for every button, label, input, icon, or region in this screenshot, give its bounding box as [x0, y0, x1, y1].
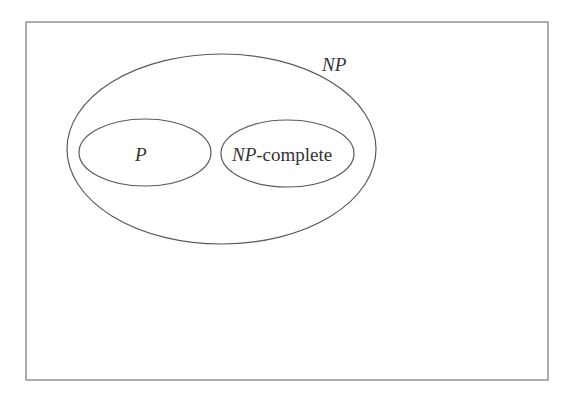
np-complete-label-suffix: -complete — [256, 144, 332, 165]
np-label: NP — [321, 54, 347, 75]
p-label: P — [134, 144, 147, 165]
np-complete-label-prefix: NP — [231, 144, 257, 165]
complexity-classes-diagram: NP P NP-complete — [0, 0, 573, 396]
np-complete-label: NP-complete — [231, 144, 332, 165]
diagram-frame — [26, 22, 548, 380]
